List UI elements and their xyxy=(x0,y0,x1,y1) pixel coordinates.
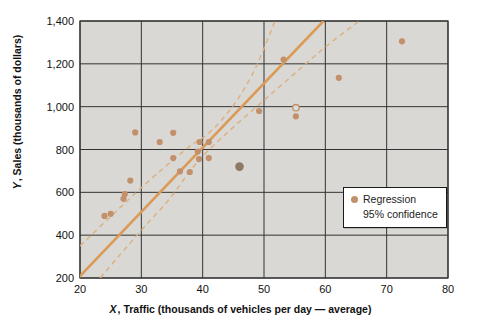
legend-row-regression: Regression xyxy=(351,192,438,207)
data-point xyxy=(195,149,201,155)
data-point xyxy=(127,178,133,184)
data-point xyxy=(235,162,244,171)
x-tick-label: 30 xyxy=(135,283,147,295)
data-point xyxy=(122,191,128,197)
x-tick-label: 50 xyxy=(258,283,270,295)
data-point xyxy=(399,38,405,44)
data-point xyxy=(206,139,212,145)
data-point xyxy=(170,130,176,136)
y-tick-label: 600 xyxy=(56,186,74,198)
data-point xyxy=(281,56,287,62)
x-tick-label: 60 xyxy=(319,283,331,295)
data-point xyxy=(177,168,183,174)
y-tick-label: 200 xyxy=(56,272,74,284)
data-point xyxy=(101,213,107,219)
x-tick-label: 80 xyxy=(442,283,454,295)
y-tick-label: 800 xyxy=(56,144,74,156)
legend: Regression 95% confidence xyxy=(343,187,447,228)
y-axis-variable: Y xyxy=(11,181,23,189)
data-point xyxy=(336,75,342,81)
data-point xyxy=(293,113,299,119)
plot-area: 2004006008001,0001,2001,4002030405060708… xyxy=(0,0,481,334)
y-tick-label: 1,400 xyxy=(46,15,74,27)
data-point xyxy=(196,156,202,162)
x-tick-label: 40 xyxy=(197,283,209,295)
regression-marker-icon xyxy=(351,196,358,203)
data-point xyxy=(206,155,212,161)
y-tick-label: 1,000 xyxy=(46,101,74,113)
legend-row-confidence: 95% confidence xyxy=(351,207,438,222)
x-tick-label: 70 xyxy=(381,283,393,295)
y-tick-label: 1,200 xyxy=(46,58,74,70)
data-point xyxy=(187,169,193,175)
data-point xyxy=(256,108,262,114)
data-point xyxy=(108,211,114,217)
scatter-chart: 2004006008001,0001,2001,4002030405060708… xyxy=(0,0,481,334)
data-point xyxy=(197,139,203,145)
legend-regression-label: Regression xyxy=(363,192,416,207)
x-axis-title-text: , Traffic (thousands of vehicles per day… xyxy=(118,303,372,315)
data-point xyxy=(170,155,176,161)
data-point xyxy=(157,139,163,145)
x-tick-label: 20 xyxy=(74,283,86,295)
x-axis-variable: X xyxy=(110,303,118,315)
y-tick-label: 400 xyxy=(56,229,74,241)
data-point xyxy=(293,105,299,111)
legend-confidence-label: 95% confidence xyxy=(363,207,438,222)
y-axis-title-text: , Sales (thousands of dollars) xyxy=(11,35,23,181)
x-axis-title: X, Traffic (thousands of vehicles per da… xyxy=(0,303,481,315)
data-point xyxy=(132,129,138,135)
